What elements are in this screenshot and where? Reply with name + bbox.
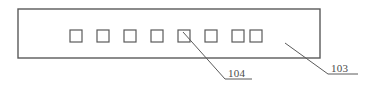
square-element bbox=[70, 30, 82, 42]
square-element bbox=[97, 30, 109, 42]
square-element bbox=[151, 30, 163, 42]
square-element bbox=[232, 30, 244, 42]
square-element bbox=[250, 30, 262, 42]
substrate-outline bbox=[18, 9, 320, 58]
square-element bbox=[124, 30, 136, 42]
square-element bbox=[205, 30, 217, 42]
reference-numeral-103: 103 bbox=[331, 62, 349, 74]
square-element bbox=[178, 30, 190, 42]
figure-drawing: 104 103 bbox=[0, 0, 367, 92]
square-element-row bbox=[70, 30, 262, 42]
leader-line-104 bbox=[183, 32, 225, 79]
reference-numeral-104: 104 bbox=[228, 67, 246, 79]
figure-container: 104 103 bbox=[0, 0, 367, 92]
